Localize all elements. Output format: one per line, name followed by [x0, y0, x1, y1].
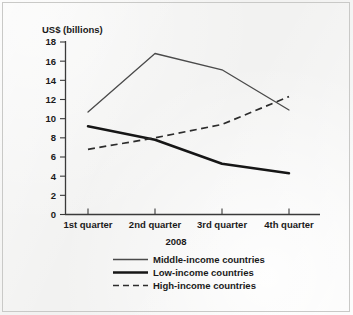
- y-axis-tick-label: 8: [51, 132, 56, 143]
- x-axis-ticks: [88, 209, 289, 215]
- x-axis-category-label: 2nd quarter: [129, 219, 182, 230]
- legend-label-low-income: Low-income countries: [153, 267, 254, 278]
- y-axis-tick-label: 14: [45, 75, 56, 86]
- y-axis-tick-label: 12: [45, 94, 56, 105]
- y-axis-tick-label: 18: [45, 36, 56, 47]
- series-line-low-income: [88, 126, 289, 173]
- legend-label-middle-income: Middle-income countries: [153, 254, 265, 265]
- y-axis-tick-label: 6: [51, 151, 56, 162]
- y-axis-tick-label: 0: [51, 209, 56, 220]
- y-axis-ticks: 024681012141618: [45, 36, 65, 220]
- x-axis-title: 2008: [165, 236, 186, 247]
- legend-label-high-income: High-income countries: [153, 280, 256, 291]
- y-axis-tick-label: 16: [45, 56, 56, 67]
- x-axis-category-label: 4th quarter: [264, 219, 314, 230]
- x-axis-category-label: 3rd quarter: [197, 219, 247, 230]
- series-line-high-income: [88, 97, 289, 150]
- x-axis-category-labels: 1st quarter2nd quarter3rd quarter4th qua…: [63, 219, 314, 230]
- y-axis-tick-label: 4: [51, 171, 57, 182]
- y-axis-tick-label: 10: [45, 113, 56, 124]
- series-line-middle-income: [88, 54, 289, 112]
- x-axis-category-label: 1st quarter: [63, 219, 112, 230]
- chart-figure: US$ (billions) 024681012141618 1st quart…: [0, 0, 353, 315]
- y-axis-title: US$ (billions): [42, 24, 103, 35]
- line-chart: US$ (billions) 024681012141618 1st quart…: [0, 0, 353, 315]
- y-axis-tick-label: 2: [51, 190, 56, 201]
- chart-legend: Middle-income countries Low-income count…: [113, 254, 265, 291]
